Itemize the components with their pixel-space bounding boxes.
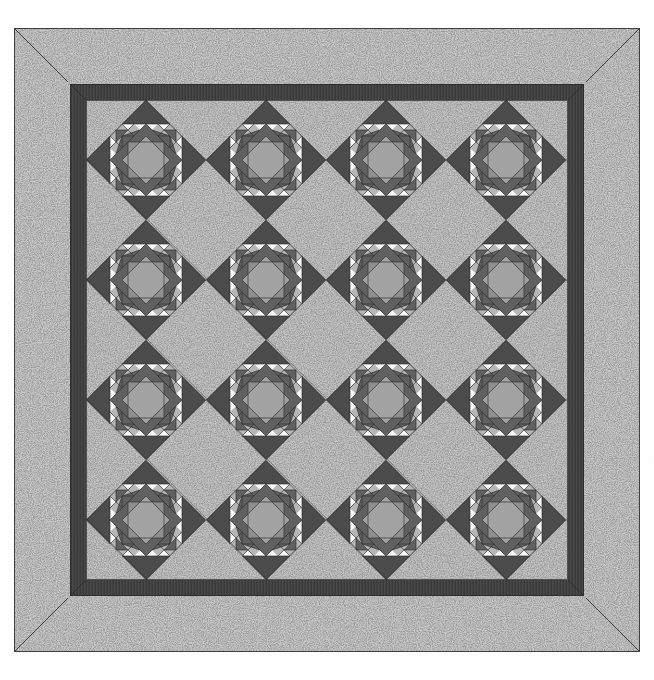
quilt-svg bbox=[0, 0, 654, 680]
quilt-artwork bbox=[0, 0, 654, 680]
quilt-field bbox=[86, 100, 568, 580]
